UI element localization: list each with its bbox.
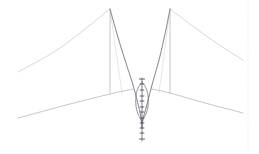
drawing-canvas: Faint technical line drawing of a cable-…: [0, 0, 259, 154]
structural-line-drawing: [0, 0, 259, 154]
canvas-background: [0, 0, 259, 154]
